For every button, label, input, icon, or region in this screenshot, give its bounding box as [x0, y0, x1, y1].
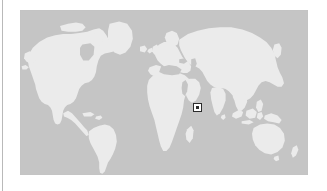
page-canvas — [0, 0, 327, 191]
marker-center-dot — [196, 106, 199, 109]
page-margin-rule — [2, 0, 3, 191]
world-locator-map — [20, 10, 308, 175]
world-map-svg — [20, 10, 308, 175]
study-area-marker[interactable] — [193, 103, 202, 112]
